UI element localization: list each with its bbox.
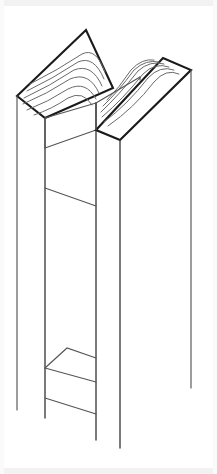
- timber-joint-drawing: [0, 0, 217, 474]
- illustration-root: [0, 0, 217, 474]
